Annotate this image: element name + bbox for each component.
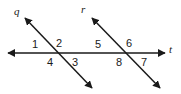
angle-label-1: 1 [32,39,38,50]
line-label-t: t [169,44,172,55]
geometry-figure: q r t 1 2 3 4 5 6 7 8 [0,0,181,94]
angle-label-6: 6 [126,38,132,49]
angle-label-3: 3 [72,57,78,68]
line-label-r: r [81,4,85,15]
geometry-canvas [0,0,181,94]
angle-label-2: 2 [56,38,62,49]
angle-label-5: 5 [95,39,101,50]
line-label-q: q [14,6,20,17]
angle-label-8: 8 [116,57,122,68]
angle-label-7: 7 [141,57,147,68]
angle-label-4: 4 [47,57,53,68]
